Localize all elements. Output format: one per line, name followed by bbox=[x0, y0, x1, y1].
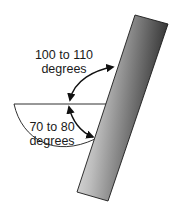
upper-angle-label-line2: degrees bbox=[41, 62, 86, 76]
tilted-bar bbox=[77, 15, 168, 201]
lower-angle-label-line2: degrees bbox=[29, 134, 74, 148]
angle-diagram: 100 to 110 degrees 70 to 80 degrees bbox=[0, 0, 186, 213]
lower-angle-label-line1: 70 to 80 bbox=[29, 120, 74, 134]
upper-angle-label-line1: 100 to 110 bbox=[35, 48, 93, 62]
